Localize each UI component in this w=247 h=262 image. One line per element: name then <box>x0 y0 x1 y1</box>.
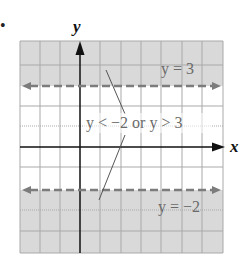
solution-label: y < −2 or y > 3 <box>86 114 182 132</box>
boundary-label-y-neg-2: y = −2 <box>158 198 200 216</box>
x-axis-label: x <box>229 137 239 156</box>
inequality-graph: • y x y = 3 y = −2 y < −2 or y > 3 <box>0 0 247 262</box>
boundary-label-y-3: y = 3 <box>161 60 194 78</box>
bullet-marker: • <box>0 17 6 34</box>
y-axis-label: y <box>71 17 81 36</box>
